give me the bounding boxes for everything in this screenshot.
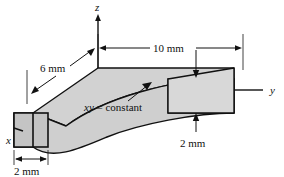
x-axis-label: x (5, 134, 11, 146)
annotation-variable: xy (83, 101, 94, 113)
depth-arrowhead-upper (87, 48, 95, 56)
length-label: 10 mm (153, 42, 184, 54)
block-left-end-face-shape (14, 113, 33, 147)
annotation-relation: = constant (94, 101, 142, 113)
width-label: 2 mm (14, 165, 40, 177)
dimension-length: 10 mm (98, 34, 243, 70)
y-axis: y (234, 84, 275, 96)
thickness-label: 2 mm (180, 137, 206, 149)
y-axis-label: y (269, 84, 275, 96)
length-arrowhead-left (99, 45, 106, 51)
length-arrowhead-right (235, 45, 242, 51)
engineering-diagram: z y x 10 mm (0, 0, 284, 177)
annotation-label: xy = constant (83, 101, 142, 113)
width-arrowhead-left (15, 156, 22, 162)
dimension-width: 2 mm (14, 150, 48, 177)
width-arrowhead-right (40, 156, 47, 162)
z-axis-label: z (94, 1, 100, 13)
depth-arrowhead-lower (31, 86, 39, 94)
depth-label: 6 mm (40, 62, 66, 74)
z-axis: z (94, 1, 101, 68)
z-axis-arrowhead (95, 14, 101, 21)
